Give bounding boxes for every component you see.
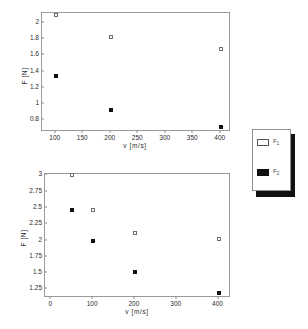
y-axis-tickmarks-top: [41, 12, 45, 131]
y-tick-label: 2: [35, 19, 39, 26]
y-tick-mark: [44, 223, 47, 224]
chart-panel-top: 0.811.21.41.61.82 100150200250300350400 …: [0, 0, 240, 160]
y-tick-label: 2.25: [29, 220, 42, 227]
y-tick-mark: [44, 206, 47, 207]
y-tick-mark: [44, 272, 47, 273]
y-tick-label: 0.8: [30, 116, 39, 123]
data-point-f2: [54, 74, 58, 78]
plot-area-bottom: [45, 174, 229, 296]
y-tick-mark: [41, 86, 44, 87]
x-tick-label: 400: [214, 135, 225, 142]
x-axis-title-bottom: v [m/s]: [125, 309, 148, 316]
x-tick-label: 300: [170, 301, 181, 308]
plot-frame-bottom: [44, 173, 230, 297]
data-point-f2: [133, 270, 137, 274]
legend-swatch-filled-square-icon: [257, 169, 269, 176]
y-tick-label: 1.4: [30, 67, 39, 74]
data-point-f1: [70, 173, 74, 177]
y-tick-label: 1.6: [30, 51, 39, 58]
legend-label-f1: F1: [273, 138, 279, 147]
x-tick-mark: [82, 130, 83, 133]
x-tick-label: 100: [87, 301, 98, 308]
x-tick-label: 300: [159, 135, 170, 142]
chart-panel-bottom: 1.251.51.7522.252.52.753 0100200300400 v…: [0, 160, 240, 329]
data-point-f1: [217, 237, 221, 241]
data-point-f2: [219, 125, 223, 129]
legend-swatch-open-square-icon: [257, 139, 269, 146]
y-tick-label: 2: [38, 236, 42, 243]
x-tick-mark: [175, 296, 176, 299]
y-tick-mark: [41, 103, 44, 104]
plot-frame-top: [41, 12, 230, 131]
data-point-f2: [91, 239, 95, 243]
x-tick-label: 150: [77, 135, 88, 142]
figure-two-scatter-panels: 0.811.21.41.61.82 100150200250300350400 …: [0, 0, 308, 329]
y-tick-label: 1: [35, 100, 39, 107]
y-tick-label: 1.5: [33, 269, 42, 276]
y-tick-mark: [41, 70, 44, 71]
plot-area-top: [42, 13, 229, 130]
x-tick-label: 200: [104, 135, 115, 142]
y-tick-mark: [44, 288, 47, 289]
y-tick-label: 2.5: [33, 204, 42, 211]
y-axis-title-top: F [N]: [22, 67, 29, 84]
y-tick-label: 1.8: [30, 35, 39, 42]
data-point-f1: [133, 231, 137, 235]
x-tick-mark: [133, 296, 134, 299]
y-tick-label: 2.75: [29, 187, 42, 194]
y-tick-label: 1.75: [29, 253, 42, 260]
x-tick-label: 200: [128, 301, 139, 308]
legend-entry-f1: F1: [257, 138, 279, 147]
y-tick-mark: [44, 255, 47, 256]
x-axis-tickmarks-top: [41, 130, 230, 134]
x-tick-mark: [54, 130, 55, 133]
data-point-f1: [219, 47, 223, 51]
x-tick-mark: [192, 130, 193, 133]
x-tick-mark: [137, 130, 138, 133]
legend-label-f2: F2: [273, 168, 279, 177]
x-tick-label: 350: [187, 135, 198, 142]
y-tick-mark: [41, 54, 44, 55]
data-point-f1: [54, 13, 58, 17]
data-point-f2: [70, 208, 74, 212]
x-tick-mark: [92, 296, 93, 299]
legend-entry-f2: F2: [257, 168, 279, 177]
y-tick-label: 3: [38, 171, 42, 178]
y-tick-label: 1.2: [30, 84, 39, 91]
x-tick-mark: [219, 130, 220, 133]
legend-shadow-bottom: [256, 190, 295, 197]
data-point-f2: [217, 291, 221, 295]
x-tick-label: 400: [212, 301, 223, 308]
x-tick-mark: [217, 296, 218, 299]
y-tick-mark: [41, 38, 44, 39]
x-axis-tickmarks-bottom: [44, 296, 230, 300]
data-point-f1: [109, 35, 113, 39]
y-axis-ticks-top: 0.811.21.41.61.82: [0, 12, 39, 131]
x-tick-label: 250: [132, 135, 143, 142]
data-point-f1: [91, 208, 95, 212]
data-point-f2: [109, 108, 113, 112]
y-tick-mark: [44, 239, 47, 240]
y-tick-mark: [44, 174, 47, 175]
y-axis-title-bottom: F [N]: [21, 229, 28, 246]
y-tick-mark: [41, 21, 44, 22]
x-tick-mark: [50, 296, 51, 299]
y-tick-label: 1.25: [29, 285, 42, 292]
y-axis-tickmarks-bottom: [44, 173, 48, 297]
y-tick-mark: [41, 119, 44, 120]
x-tick-mark: [109, 130, 110, 133]
y-tick-mark: [44, 190, 47, 191]
x-tick-mark: [164, 130, 165, 133]
x-tick-label: 100: [49, 135, 60, 142]
x-tick-label: 0: [48, 301, 52, 308]
x-axis-title-top: v [m/s]: [123, 143, 146, 150]
